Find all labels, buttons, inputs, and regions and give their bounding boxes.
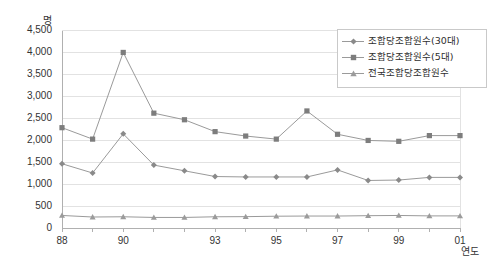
square-marker-icon — [342, 52, 364, 62]
diamond-data-point — [243, 174, 249, 180]
triangle-marker-icon — [342, 68, 364, 78]
y-tick-label: 3,000 — [8, 91, 52, 101]
square-data-point — [396, 139, 401, 144]
diamond-data-point — [212, 174, 218, 180]
y-tick-label: 500 — [8, 201, 52, 211]
x-axis-ticks — [62, 228, 460, 232]
square-data-point — [59, 125, 64, 130]
square-data-point — [121, 50, 126, 55]
diamond-data-point — [457, 174, 463, 180]
line-chart: 명 05001,0001,5002,0002,5003,0003,5004,00… — [0, 0, 493, 266]
data-series — [59, 212, 463, 219]
x-axis-unit-label: 연도 — [461, 243, 479, 258]
x-tick-label: 90 — [110, 236, 136, 246]
data-series — [59, 131, 463, 184]
legend-item-2[interactable]: 전국조합당조합원수 — [342, 65, 480, 81]
diamond-data-point — [426, 174, 432, 180]
square-data-point — [151, 111, 156, 116]
diamond-data-point — [304, 174, 310, 180]
square-data-point — [427, 133, 432, 138]
diamond-data-point — [273, 174, 279, 180]
square-data-point — [335, 132, 340, 137]
legend-item-0[interactable]: 조합당조합원수(30대) — [342, 33, 480, 49]
legend-item-label: 조합당조합원수(5대) — [368, 52, 453, 62]
legend-item-label: 전국조합당조합원수 — [368, 68, 449, 78]
x-tick-label: 93 — [202, 236, 228, 246]
legend-item-1[interactable]: 조합당조합원수(5대) — [342, 49, 480, 65]
y-tick-label: 0 — [8, 223, 52, 233]
x-tick-label: 99 — [386, 236, 412, 246]
square-data-point — [304, 108, 309, 113]
y-tick-label: 3,500 — [8, 69, 52, 79]
y-tick-label: 2,000 — [8, 135, 52, 145]
square-data-point — [212, 129, 217, 134]
square-data-point — [90, 137, 95, 142]
diamond-marker-icon — [342, 36, 364, 46]
legend: 조합당조합원수(30대) 조합당조합원수(5대) 전국조합당조합원수 — [337, 29, 487, 88]
square-data-point — [274, 137, 279, 142]
y-tick-label: 4,000 — [8, 47, 52, 57]
y-tick-label: 1,500 — [8, 157, 52, 167]
diamond-data-point — [181, 168, 187, 174]
y-tick-label: 1,000 — [8, 179, 52, 189]
square-data-point — [457, 133, 462, 138]
diamond-data-point — [335, 167, 341, 173]
y-tick-label: 2,500 — [8, 113, 52, 123]
y-tick-label: 4,500 — [8, 25, 52, 35]
x-tick-label: 95 — [263, 236, 289, 246]
diamond-data-point — [396, 177, 402, 183]
legend-item-label: 조합당조합원수(30대) — [368, 36, 460, 46]
square-data-point — [366, 138, 371, 143]
square-data-point — [182, 117, 187, 122]
diamond-data-point — [365, 177, 371, 183]
square-data-point — [243, 133, 248, 138]
x-tick-label: 88 — [49, 236, 75, 246]
x-tick-label: 97 — [325, 236, 351, 246]
